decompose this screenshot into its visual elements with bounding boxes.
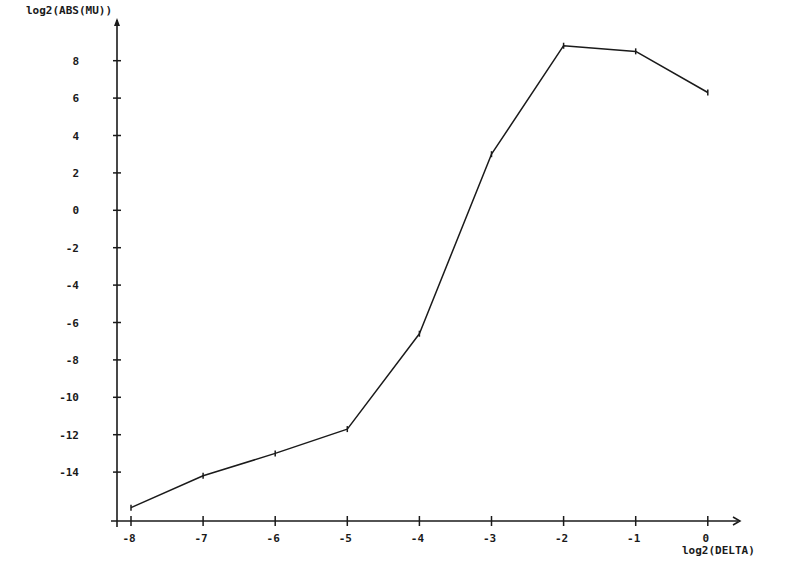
y-tick-label: 0	[72, 204, 79, 217]
line-chart: 86420-2-4-6-8-10-12-14 -8-7-6-5-4-3-2-10…	[0, 0, 798, 580]
y-tick-label: -12	[59, 429, 79, 442]
y-tick-label: -2	[66, 242, 79, 255]
y-axis-ticks: 86420-2-4-6-8-10-12-14	[59, 55, 121, 479]
y-tick-label: 2	[72, 167, 79, 180]
y-tick-label: 8	[72, 55, 79, 68]
y-tick-label: 6	[72, 92, 79, 105]
x-tick-label: -4	[411, 532, 425, 545]
x-tick-label: -6	[267, 532, 281, 545]
y-tick-label: -4	[66, 279, 80, 292]
series-line	[131, 46, 708, 508]
y-tick-label: -6	[66, 317, 80, 330]
y-tick-label: -8	[66, 354, 79, 367]
x-tick-label: -7	[194, 532, 207, 545]
data-series	[131, 43, 708, 511]
y-axis-arrow-icon	[114, 18, 120, 26]
y-tick-label: -10	[59, 391, 79, 404]
x-tick-label: -2	[555, 532, 568, 545]
y-tick-label: 4	[72, 130, 79, 143]
x-tick-label: -1	[627, 532, 641, 545]
x-tick-label: -5	[339, 532, 352, 545]
x-axis-label: log2(DELTA)	[682, 544, 755, 557]
x-tick-label: -3	[483, 532, 496, 545]
axes	[111, 18, 740, 527]
x-tick-label: -8	[122, 532, 135, 545]
y-axis-label: log2(ABS(MU))	[26, 4, 112, 17]
y-tick-label: -14	[59, 466, 79, 479]
